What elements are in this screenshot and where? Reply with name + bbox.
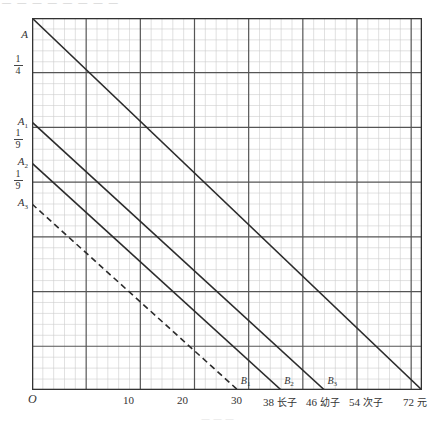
fraction-numerator: 1 <box>10 169 26 180</box>
x-axis-tick-label: 10 <box>123 394 134 406</box>
figure-caption: — — — <box>0 414 436 423</box>
y-axis-label-a: A <box>8 28 28 40</box>
fraction-numerator: 1 <box>10 54 26 65</box>
x-tick-annotation: 元 <box>414 397 427 408</box>
fraction-denominator: 9 <box>10 181 26 192</box>
origin-label: O <box>28 392 37 407</box>
endpoint-label: B3 <box>328 375 338 388</box>
y-axis-fraction: 19 <box>10 128 26 150</box>
x-tick-annotation: 幼子 <box>317 397 340 408</box>
x-axis-tick-label: 46 幼子 <box>306 394 340 409</box>
y-axis-fraction: 14 <box>10 54 26 76</box>
endpoint-label: B1 <box>241 375 251 388</box>
graph-svg: B1B2B3B <box>32 18 422 390</box>
x-axis-tick-label: 38 长子 <box>263 394 297 409</box>
x-tick-value: 10 <box>123 394 134 406</box>
page-header-faint: — — — — — — — — <box>0 0 436 11</box>
x-axis-tick-label: 20 <box>177 394 188 406</box>
graph-figure: — — — — — — — — B1B2B3B AA1A2A3 141919 O… <box>0 0 436 423</box>
endpoint-label: B2 <box>284 375 294 388</box>
x-axis-tick-label: 72 元 <box>403 394 427 409</box>
y-axis-fraction: 19 <box>10 169 26 191</box>
x-tick-value: 46 <box>306 396 317 408</box>
x-tick-annotation: 长子 <box>274 397 297 408</box>
x-tick-value: 72 <box>403 396 414 408</box>
fraction-denominator: 9 <box>10 140 26 151</box>
x-tick-value: 30 <box>231 394 242 406</box>
x-axis-tick-label: 54 次子 <box>349 394 383 409</box>
x-tick-value: 20 <box>177 394 188 406</box>
x-axis-tick-label: 30 <box>231 394 242 406</box>
x-tick-value: 38 <box>263 396 274 408</box>
y-axis-label-a3: A3 <box>8 196 28 211</box>
x-tick-value: 54 <box>349 396 360 408</box>
plot-area: B1B2B3B <box>32 18 422 390</box>
fraction-denominator: 4 <box>10 66 26 77</box>
page-header-text: — — — — — — — — <box>2 0 436 7</box>
fraction-numerator: 1 <box>10 128 26 139</box>
x-tick-annotation: 次子 <box>360 397 383 408</box>
